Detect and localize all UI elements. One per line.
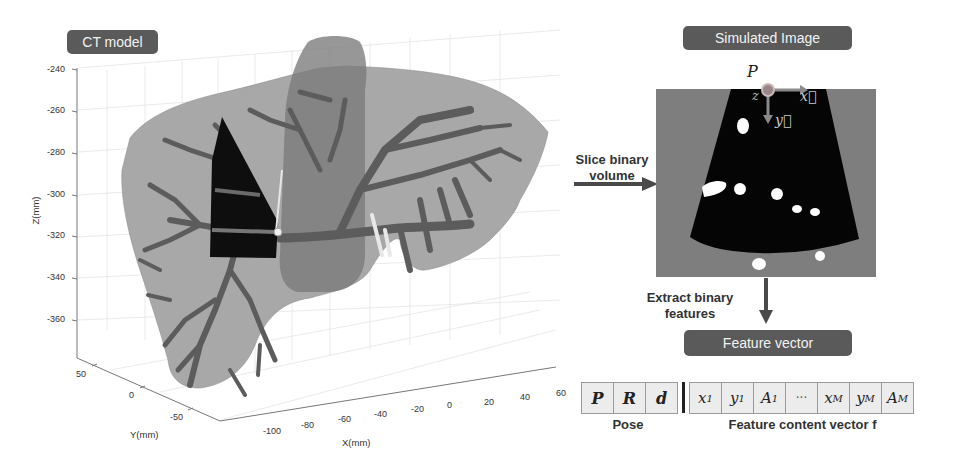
z-tick: -360 [47,314,65,324]
z-axis-symbol: z [752,88,759,103]
x-tick: -80 [301,420,314,430]
vena-cava [280,36,367,292]
content-cell-am: AM [881,382,914,414]
x-tick: -60 [338,414,351,424]
y-tick: -50 [170,412,183,422]
extract-label-line2: features [630,306,750,322]
z-tick: -300 [47,189,65,199]
vector-separator [682,382,685,413]
probe-origin-icon [762,84,774,96]
z-tick: -260 [47,105,65,115]
pose-cell-p: P [581,382,614,414]
x-axis-label: X(mm) [342,437,371,448]
y-tick: 0 [129,390,134,400]
z-tick: -340 [47,272,65,282]
z-tick: -240 [47,64,65,74]
x-axis-symbol: x⃗ [800,88,816,104]
x-tick: -20 [411,404,424,414]
extract-arrow [758,278,774,326]
extract-label: Extract binary features [630,290,750,322]
content-cell-ellipsis: ··· [785,382,818,414]
content-cell-xm: xM [817,382,850,414]
x-tick: -40 [374,409,387,419]
pose-cells: P R d [582,382,678,414]
z-tick: -280 [47,147,65,157]
z-tick: -320 [47,230,65,240]
pose-cell-r: R [613,382,646,414]
slice-arrow [572,176,660,192]
x-tick: 20 [484,397,494,407]
content-label: Feature content vector f [690,417,915,433]
y-axis-symbol: y⃗ [775,112,791,128]
simulated-image-title: Simulated Image [683,26,852,50]
content-cells: x1 y1 A1 ··· xM yM AM [690,382,914,414]
feature-vector-title: Feature vector [684,330,852,356]
content-cell-x1: x1 [689,382,722,414]
content-cell-a1: A1 [753,382,786,414]
pose-cell-d: d [645,382,678,414]
extract-label-line1: Extract binary [630,290,750,306]
content-cell-ym: yM [849,382,882,414]
x-tick: 40 [520,392,530,402]
pose-label: Pose [582,417,674,433]
y-tick: 50 [76,369,86,379]
x-tick: 60 [556,388,566,398]
ct-3d-plot [0,0,570,465]
z-axis-label: Z(mm) [30,197,41,225]
probe-label: P [747,62,758,81]
content-cell-y1: y1 [721,382,754,414]
x-tick: 0 [447,400,452,410]
slice-label-line1: Slice binary [560,152,664,168]
x-tick: -100 [263,426,281,436]
y-axis-label: Y(mm) [130,429,159,440]
